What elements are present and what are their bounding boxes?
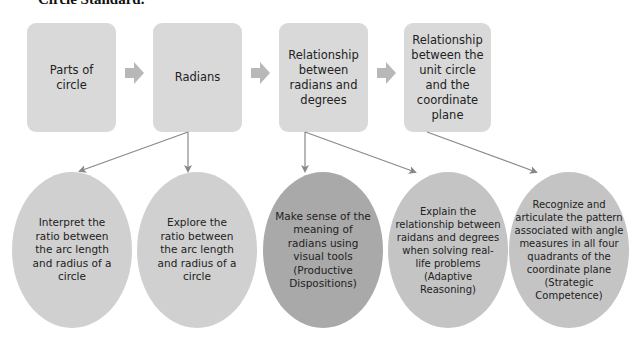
ellipse-label: Make sense of the meaning of radians usi… [274, 210, 372, 291]
ellipse-explore-ratio: Explore the ratio between the arc length… [137, 172, 257, 328]
ellipse-label: Explore the ratio between the arc length… [157, 216, 237, 284]
ellipse-label: Recognize and articulate the pattern ass… [510, 198, 628, 302]
ellipse-label: Interpret the ratio between the arc leng… [30, 216, 114, 284]
ellipse-adaptive-reasoning: Explain the relationship between raidans… [388, 172, 508, 328]
ellipse-strategic-competence: Recognize and articulate the pattern ass… [509, 172, 629, 328]
ellipse-productive-dispositions: Make sense of the meaning of radians usi… [263, 172, 383, 328]
ellipse-interpret-ratio: Interpret the ratio between the arc leng… [12, 172, 132, 328]
ellipse-label: Explain the relationship between raidans… [395, 205, 501, 296]
